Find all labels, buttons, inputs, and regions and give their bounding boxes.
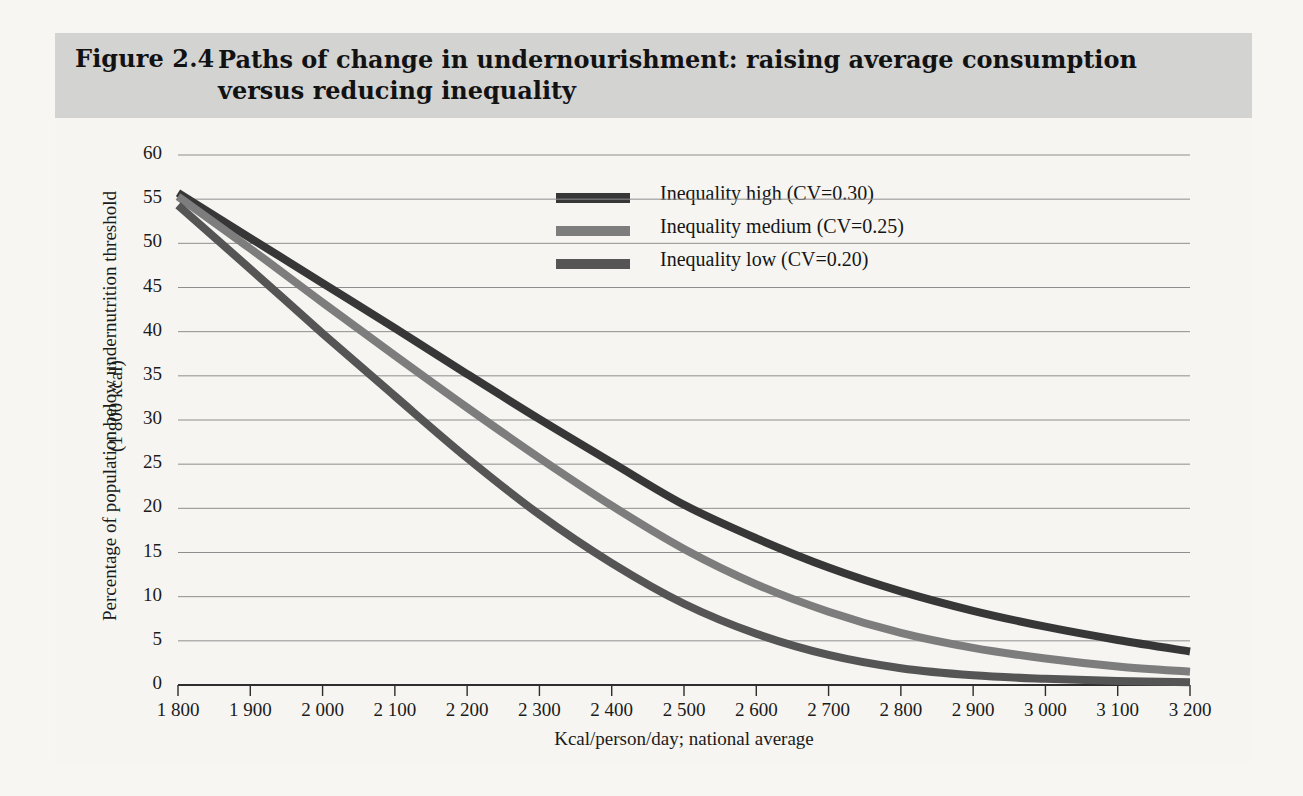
series-line-0 [178,193,1190,651]
chart-plot [0,0,1303,796]
series-line-2 [178,205,1190,682]
gridlines [178,155,1190,641]
x-axis-ticks [178,685,1190,696]
figure-page: Figure 2.4 Paths of change in undernouri… [0,0,1303,796]
data-curves [178,193,1190,682]
